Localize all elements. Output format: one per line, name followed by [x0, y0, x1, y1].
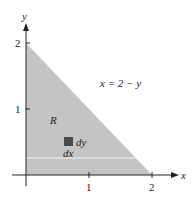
dy-label: dy: [76, 136, 87, 148]
region-label: R: [49, 114, 57, 126]
x-axis-arrow-icon: [171, 172, 179, 178]
region-r: [26, 43, 152, 175]
x-axis-label: x: [180, 169, 186, 181]
y-axis-arrow-icon: [23, 23, 29, 31]
boundary-label: x = 2 − y: [99, 77, 141, 89]
area-element: [64, 137, 73, 146]
dx-label: dx: [63, 147, 74, 159]
double-integral-region-diagram: y x 2 1 1 2 x = 2 − y R dy dx: [0, 0, 193, 204]
x-tick-label-1: 1: [86, 181, 92, 193]
x-tick-label-2: 2: [149, 181, 155, 193]
y-axis-label: y: [21, 10, 27, 22]
y-tick-label-2: 2: [15, 37, 21, 49]
y-tick-label-1: 1: [15, 103, 21, 115]
